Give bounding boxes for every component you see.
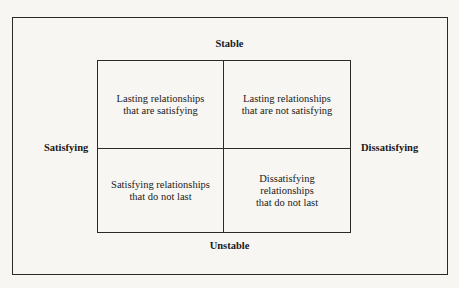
quadrant-text-line: Lasting relationships [242, 93, 333, 105]
quadrant-text-line: that are not satisfying [242, 105, 333, 117]
quadrant-unstable-dissatisfying: Dissatisfying relationships that do not … [224, 149, 350, 232]
quadrant-text-line: Lasting relationships [117, 93, 205, 105]
quadrant-unstable-satisfying: Satisfying relationships that do not las… [98, 149, 224, 232]
axis-label-unstable: Unstable [0, 240, 459, 251]
quadrant-text-line: Dissatisfying [256, 173, 318, 185]
quadrant-text-line: relationships [256, 185, 318, 197]
quadrant-text-line: Satisfying relationships [111, 179, 210, 191]
axis-label-stable: Stable [0, 38, 459, 49]
quadrant-text-line: that do not last [256, 197, 318, 209]
quadrant-text-line: that are satisfying [117, 105, 205, 117]
axis-label-satisfying: Satisfying [44, 142, 88, 153]
quadrant-stable-dissatisfying: Lasting relationships that are not satis… [224, 61, 350, 149]
quadrant-grid: Lasting relationships that are satisfyin… [97, 60, 351, 233]
axis-label-dissatisfying: Dissatisfying [361, 142, 418, 153]
quadrant-stable-satisfying: Lasting relationships that are satisfyin… [98, 61, 224, 149]
quadrant-text-line: that do not last [111, 191, 210, 203]
